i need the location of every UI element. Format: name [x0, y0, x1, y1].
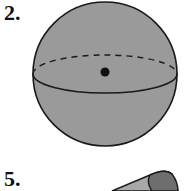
- sphere-figure: [33, 2, 177, 146]
- cone-base: [148, 171, 178, 191]
- figures: [0, 0, 190, 191]
- center-point: [101, 68, 110, 77]
- cone-figure: [112, 171, 178, 191]
